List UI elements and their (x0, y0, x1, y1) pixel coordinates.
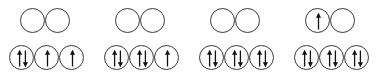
upper-orbital-row (115, 8, 165, 33)
lower-orbital-row (294, 45, 369, 70)
orbital-bottom-2[interactable] (319, 45, 344, 70)
orbital-top-2[interactable] (140, 8, 165, 33)
paired-spin-arrows-icon (130, 46, 155, 71)
orbital-bottom-2[interactable] (129, 45, 154, 70)
orbital-bottom-1[interactable] (9, 45, 34, 70)
orbital-top-2[interactable] (45, 8, 70, 33)
orbital-top-1[interactable] (20, 8, 45, 33)
paired-spin-arrows-icon (295, 46, 320, 71)
orbital-bottom-1[interactable] (104, 45, 129, 70)
orbital-bottom-3[interactable] (59, 45, 84, 70)
up-spin-arrow-icon (60, 46, 85, 71)
orbital-bottom-2[interactable] (224, 45, 249, 70)
up-spin-arrow-icon (35, 46, 60, 71)
paired-spin-arrows-icon (10, 46, 35, 71)
orbital-top-2[interactable] (235, 8, 260, 33)
upper-orbital-row (210, 8, 260, 33)
paired-spin-arrows-icon (345, 46, 370, 71)
orbital-bottom-1[interactable] (199, 45, 224, 70)
lower-orbital-row (9, 45, 84, 70)
orbital-top-1[interactable] (115, 8, 140, 33)
paired-spin-arrows-icon (105, 46, 130, 71)
paired-spin-arrows-icon (200, 46, 225, 71)
upper-orbital-row (20, 8, 70, 33)
orbital-top-2[interactable] (330, 8, 355, 33)
up-spin-arrow-icon (155, 46, 180, 71)
orbital-bottom-1[interactable] (294, 45, 319, 70)
lower-orbital-row (104, 45, 179, 70)
paired-spin-arrows-icon (225, 46, 250, 71)
lower-orbital-row (199, 45, 274, 70)
orbital-filling-diagram (0, 0, 391, 79)
orbital-top-1[interactable] (305, 8, 330, 33)
orbital-bottom-3[interactable] (344, 45, 369, 70)
orbital-bottom-3[interactable] (249, 45, 274, 70)
paired-spin-arrows-icon (250, 46, 275, 71)
paired-spin-arrows-icon (320, 46, 345, 71)
up-spin-arrow-icon (306, 9, 331, 34)
orbital-bottom-2[interactable] (34, 45, 59, 70)
orbital-top-1[interactable] (210, 8, 235, 33)
orbital-bottom-3[interactable] (154, 45, 179, 70)
upper-orbital-row (305, 8, 355, 33)
